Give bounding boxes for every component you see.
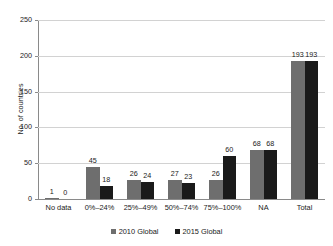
- legend-swatch-icon: [175, 229, 180, 234]
- bar: [141, 182, 155, 199]
- x-axis-label: Total: [275, 203, 333, 212]
- bar-value-label: 24: [135, 172, 161, 180]
- bar-value-label: 18: [94, 176, 120, 184]
- bar-value-label: 45: [80, 157, 106, 165]
- bar-value-label: 68: [258, 140, 284, 148]
- gridline: [38, 20, 325, 21]
- gridline: [38, 199, 325, 200]
- legend-item[interactable]: 2015 Global: [175, 227, 223, 236]
- bar: [305, 61, 319, 199]
- bar: [250, 150, 264, 199]
- legend-swatch-icon: [111, 229, 116, 234]
- bar: [209, 180, 223, 199]
- bar: [127, 180, 141, 199]
- legend-item[interactable]: 2010 Global: [111, 227, 159, 236]
- legend-label: 2015 Global: [183, 227, 223, 236]
- gridline: [38, 127, 325, 128]
- y-tick-label: 0: [0, 195, 32, 203]
- plot-area: 1045182624272326606868193193: [38, 20, 325, 199]
- bar-chart: No. of countries 050100150200250 1045182…: [0, 0, 333, 246]
- y-tick-label: 100: [0, 123, 32, 131]
- y-tick-label: 200: [0, 52, 32, 60]
- bar-value-label: 23: [176, 173, 202, 181]
- bar: [264, 150, 278, 199]
- bar: [223, 156, 237, 199]
- bar: [168, 180, 182, 199]
- bar: [182, 183, 196, 199]
- gridline: [38, 92, 325, 93]
- chart-legend: 2010 Global2015 Global: [0, 227, 333, 236]
- y-tick-label: 50: [0, 159, 32, 167]
- bar: [100, 186, 114, 199]
- gridline: [38, 56, 325, 57]
- legend-label: 2010 Global: [119, 227, 159, 236]
- y-tick-label: 250: [0, 16, 32, 24]
- bar-value-label: 60: [217, 146, 243, 154]
- bar-value-label: 193: [299, 51, 325, 59]
- bar: [45, 198, 59, 199]
- bar-value-label: 0: [53, 189, 79, 197]
- bar: [291, 61, 305, 199]
- y-tick-label: 150: [0, 88, 32, 96]
